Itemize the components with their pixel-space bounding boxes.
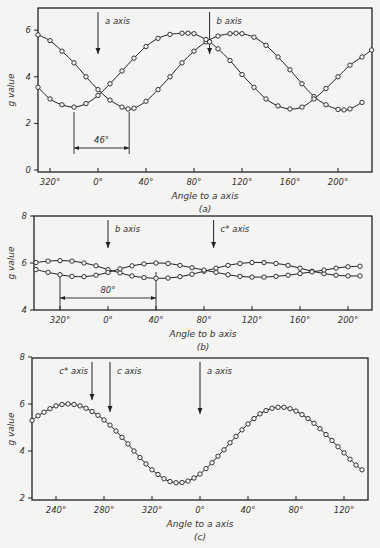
data-point-marker — [342, 108, 346, 112]
data-point-marker — [310, 270, 314, 274]
data-point-marker — [42, 410, 46, 414]
data-point-marker — [207, 40, 211, 44]
data-point-marker — [30, 418, 34, 422]
data-point-marker — [114, 429, 118, 433]
data-point-marker — [324, 86, 328, 90]
data-point-marker — [186, 479, 190, 483]
data-point-marker — [178, 274, 182, 278]
x-tick-label: 200° — [328, 177, 348, 187]
data-point-marker — [48, 97, 52, 101]
data-point-marker — [60, 49, 64, 53]
y-tick-label: 6 — [20, 399, 26, 409]
data-point-marker — [202, 268, 206, 272]
y-tick-label: 4 — [20, 446, 25, 456]
data-point-marker — [216, 47, 220, 51]
data-point-marker — [156, 87, 160, 91]
data-point-marker — [60, 103, 64, 107]
data-point-marker — [166, 276, 170, 280]
x-tick-label: 0° — [93, 177, 103, 187]
x-tick-label: 0° — [103, 315, 113, 325]
data-point-marker — [78, 404, 82, 408]
data-point-marker — [334, 266, 338, 270]
data-point-marker — [174, 481, 178, 485]
data-point-marker — [120, 105, 124, 109]
data-point-marker — [192, 49, 196, 53]
data-point-marker — [48, 38, 52, 42]
data-point-marker — [288, 68, 292, 72]
x-tick-label: 280° — [94, 505, 114, 515]
data-point-marker — [216, 34, 220, 38]
data-point-marker — [120, 69, 124, 73]
data-point-marker — [324, 432, 328, 436]
y-tick-label: 0 — [26, 165, 31, 175]
data-point-marker — [312, 97, 316, 101]
data-point-marker — [214, 266, 218, 270]
data-point-marker — [214, 270, 218, 274]
x-tick-label: 160° — [280, 177, 300, 187]
data-point-marker — [346, 265, 350, 269]
data-point-marker — [228, 441, 232, 445]
data-point-marker — [342, 451, 346, 455]
x-tick-label: 80° — [186, 177, 201, 187]
data-point-marker — [264, 97, 268, 101]
data-point-marker — [54, 404, 58, 408]
data-point-marker — [282, 405, 286, 409]
data-point-marker — [294, 409, 298, 413]
data-point-marker — [240, 428, 244, 432]
data-point-marker — [138, 455, 142, 459]
data-point-marker — [48, 407, 52, 411]
data-point-marker — [84, 101, 88, 105]
chart-panel-1: 468320°0°40°80°120°160°200°g valueAngle … — [6, 211, 372, 352]
data-point-marker — [144, 462, 148, 466]
data-point-marker — [180, 61, 184, 65]
data-point-marker — [354, 463, 358, 467]
axis-annotation-label: c* axis — [59, 366, 88, 376]
data-point-marker — [168, 32, 172, 36]
y-tick-label: 4 — [22, 305, 27, 315]
data-point-marker — [298, 271, 302, 275]
data-point-marker — [192, 476, 196, 480]
arrow-head-icon — [211, 242, 216, 248]
x-tick-label: 160° — [290, 315, 310, 325]
data-point-marker — [226, 273, 230, 277]
x-tick-label: 80° — [288, 505, 303, 515]
data-point-marker — [226, 263, 230, 267]
data-point-marker — [166, 261, 170, 265]
data-point-marker — [120, 435, 124, 439]
data-point-marker — [286, 263, 290, 267]
data-point-marker — [126, 442, 130, 446]
data-point-marker — [70, 259, 74, 263]
data-point-marker — [348, 457, 352, 461]
data-point-marker — [142, 262, 146, 266]
data-point-marker — [82, 274, 86, 278]
x-tick-label: 40° — [138, 177, 153, 187]
data-point-marker — [154, 261, 158, 265]
data-point-marker — [96, 93, 100, 97]
data-point-marker — [312, 421, 316, 425]
arrow-head-icon — [96, 48, 101, 54]
data-point-marker — [126, 107, 130, 111]
span-label: 46° — [94, 135, 109, 145]
data-point-marker — [288, 407, 292, 411]
data-point-marker — [238, 274, 242, 278]
x-tick-label: 0° — [195, 505, 205, 515]
data-point-marker — [84, 406, 88, 410]
y-axis-label: g value — [6, 246, 16, 280]
data-point-marker — [276, 55, 280, 59]
y-tick-label: 4 — [26, 72, 31, 82]
axis-annotation-label: b axis — [217, 16, 243, 26]
data-point-marker — [258, 412, 262, 416]
panel-label: (b) — [197, 342, 210, 352]
data-point-marker — [90, 409, 94, 413]
data-point-marker — [252, 85, 256, 89]
data-point-marker — [156, 36, 160, 40]
data-point-marker — [322, 268, 326, 272]
data-point-marker — [348, 107, 352, 111]
data-point-marker — [306, 416, 310, 420]
data-point-marker — [270, 406, 274, 410]
y-axis-label: g value — [6, 412, 16, 446]
data-point-marker — [348, 63, 352, 67]
data-point-marker — [288, 107, 292, 111]
data-point-marker — [228, 31, 232, 35]
data-point-marker — [300, 412, 304, 416]
